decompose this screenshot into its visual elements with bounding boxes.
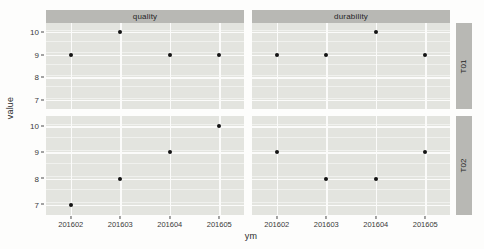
gridline-major-x xyxy=(326,23,327,109)
gridline-minor-y xyxy=(46,30,244,31)
x-tick-label: 201602 xyxy=(58,216,83,229)
data-point xyxy=(118,177,122,181)
gridline-minor-y xyxy=(46,41,244,42)
panel-quality-t02 xyxy=(46,116,244,215)
x-tick-label: 201602 xyxy=(264,216,289,229)
facet-strip-t01: T01 xyxy=(456,23,472,109)
data-point xyxy=(217,53,221,57)
gridline-major-y xyxy=(46,100,244,101)
y-axis-ticks-row-0: 10987 xyxy=(18,23,44,109)
y-tick-label: 9 xyxy=(18,50,44,59)
data-point xyxy=(69,203,73,207)
gridline-major-y xyxy=(252,205,450,206)
gridline-minor-y xyxy=(46,189,244,190)
gridline-minor-y xyxy=(252,176,450,177)
data-point xyxy=(168,53,172,57)
x-axis-title-label: ym xyxy=(245,231,257,241)
gridline-major-y xyxy=(252,100,450,101)
gridline-major-x xyxy=(71,23,72,109)
x-axis-ticks-quality: 201602201603201604201605 xyxy=(46,216,244,230)
gridline-major-y xyxy=(252,55,450,56)
y-tick-label: 8 xyxy=(18,174,44,183)
y-axis-title: value xyxy=(2,0,18,215)
gridline-major-x xyxy=(326,116,327,215)
y-tick-label: 10 xyxy=(18,122,44,131)
facet-scatter-plot: value 10987 10987 quality durability T01… xyxy=(0,0,484,249)
data-point xyxy=(324,53,328,57)
facet-grid: quality durability T01 T02 xyxy=(46,10,472,215)
x-tick-label: 201605 xyxy=(413,216,438,229)
y-tick-label: 10 xyxy=(18,28,44,37)
y-tick-label: 7 xyxy=(18,200,44,209)
gridline-major-x xyxy=(170,116,171,215)
y-tick-label: 7 xyxy=(18,95,44,104)
facet-strip-label: quality xyxy=(133,12,158,21)
gridline-major-x xyxy=(120,23,121,109)
gridline-major-y xyxy=(46,77,244,78)
gridline-minor-y xyxy=(46,64,244,65)
gridline-major-y xyxy=(46,205,244,206)
gridline-minor-y xyxy=(46,124,244,125)
gridline-minor-y xyxy=(46,176,244,177)
facet-strip-label: durability xyxy=(334,12,368,21)
panel-quality-t01 xyxy=(46,23,244,109)
x-axis-ticks-durability: 201602201603201604201605 xyxy=(252,216,450,230)
gridline-minor-y xyxy=(46,150,244,151)
data-point xyxy=(423,53,427,57)
gridline-minor-y xyxy=(252,75,450,76)
gridline-minor-y xyxy=(252,150,450,151)
gridline-minor-y xyxy=(46,202,244,203)
x-axis-title: ym xyxy=(46,231,456,241)
x-tick-label: 201603 xyxy=(108,216,133,229)
panel-durability-t01 xyxy=(252,23,450,109)
data-point xyxy=(374,30,378,34)
y-axis-ticks-row-1: 10987 xyxy=(18,116,44,215)
data-point xyxy=(275,150,279,154)
facet-strip-durability-top: durability xyxy=(252,10,450,23)
gridline-major-y xyxy=(46,179,244,180)
gridline-minor-y xyxy=(46,163,244,164)
x-tick-label: 201603 xyxy=(314,216,339,229)
gridline-major-x xyxy=(71,116,72,215)
gridline-major-y xyxy=(252,152,450,153)
x-tick-label: 201604 xyxy=(363,216,388,229)
facet-strip-label: T01 xyxy=(459,59,468,73)
gridline-minor-y xyxy=(252,30,450,31)
gridline-major-y xyxy=(46,32,244,33)
gridline-major-y xyxy=(252,179,450,180)
panel-durability-t02 xyxy=(252,116,450,215)
gridline-major-x xyxy=(376,116,377,215)
gridline-minor-y xyxy=(252,189,450,190)
data-point xyxy=(374,177,378,181)
gridline-major-x xyxy=(219,23,220,109)
gridline-major-y xyxy=(46,126,244,127)
gridline-major-x xyxy=(376,23,377,109)
gridline-major-x xyxy=(219,116,220,215)
gridline-minor-y xyxy=(252,137,450,138)
gridline-major-x xyxy=(120,116,121,215)
gridline-minor-y xyxy=(252,98,450,99)
gridline-major-y xyxy=(46,152,244,153)
gridline-major-y xyxy=(46,55,244,56)
x-tick-label: 201604 xyxy=(157,216,182,229)
gridline-minor-y xyxy=(46,75,244,76)
gridline-minor-y xyxy=(252,202,450,203)
y-axis-title-label: value xyxy=(5,96,15,119)
gridline-major-x xyxy=(277,116,278,215)
data-point xyxy=(324,177,328,181)
facet-strip-label: T02 xyxy=(459,159,468,173)
gridline-minor-y xyxy=(252,163,450,164)
y-tick-label: 9 xyxy=(18,148,44,157)
gridline-major-x xyxy=(277,23,278,109)
x-tick-label: 201605 xyxy=(207,216,232,229)
gridline-minor-y xyxy=(46,98,244,99)
gridline-major-y xyxy=(252,126,450,127)
gridline-minor-y xyxy=(46,52,244,53)
facet-row-t02: T02 xyxy=(46,116,472,215)
data-point xyxy=(118,30,122,34)
data-point xyxy=(423,150,427,154)
gridline-minor-y xyxy=(252,64,450,65)
facet-strip-t02: T02 xyxy=(456,116,472,215)
gridline-minor-y xyxy=(252,52,450,53)
gridline-major-y xyxy=(252,77,450,78)
